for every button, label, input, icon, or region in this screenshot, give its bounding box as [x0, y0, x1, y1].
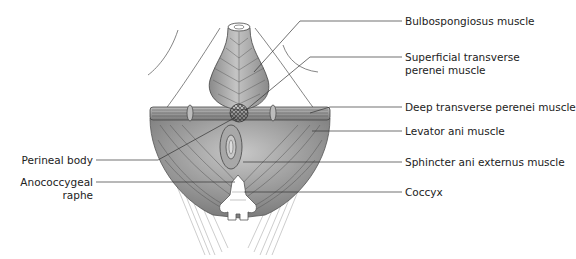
label-bulbospongiosus: Bulbospongiosus muscle: [405, 15, 535, 27]
label-perineal-body: Perineal body: [22, 154, 93, 166]
urethral-opening: [228, 23, 250, 31]
anal-lumen: [229, 140, 233, 154]
label-sphincter-ani: Sphincter ani externus muscle: [405, 156, 565, 168]
label-coccyx: Coccyx: [405, 186, 443, 198]
label-anococcygeal-line2: raphe: [62, 189, 93, 201]
superficial-transverse-right-tendon: [270, 105, 276, 121]
label-superficial-transverse-line2: perenei muscle: [405, 64, 486, 76]
label-anococcygeal-line1: Anococcygeal: [20, 176, 93, 188]
label-superficial-transverse-line1: Superficial transverse: [405, 51, 520, 63]
label-deep-transverse: Deep transverse perenei muscle: [405, 101, 576, 113]
label-levator-ani: Levator ani muscle: [405, 125, 505, 137]
perineal-body: [230, 104, 248, 122]
superficial-transverse-left-tendon: [187, 105, 193, 121]
